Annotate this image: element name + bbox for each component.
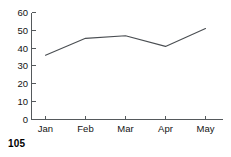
y-tick-label-40: 40 xyxy=(17,43,28,54)
x-tick-label-may: May xyxy=(197,123,215,134)
x-axis-ticks xyxy=(46,116,206,120)
x-tick-label-feb: Feb xyxy=(77,123,93,134)
chart-figure: 60 50 40 30 20 10 0 Jan Feb Mar Apr May … xyxy=(0,0,231,157)
line-chart: 60 50 40 30 20 10 0 Jan Feb Mar Apr May xyxy=(0,0,231,135)
y-tick-label-50: 50 xyxy=(17,25,28,36)
x-tick-label-mar: Mar xyxy=(117,123,133,134)
x-axis-tick-labels: Jan Feb Mar Apr May xyxy=(38,123,215,134)
data-series-line xyxy=(46,29,206,56)
y-tick-label-30: 30 xyxy=(17,60,28,71)
y-tick-label-60: 60 xyxy=(17,7,28,18)
x-tick-label-apr: Apr xyxy=(158,123,173,134)
x-tick-label-jan: Jan xyxy=(38,123,53,134)
y-axis-tick-labels: 60 50 40 30 20 10 0 xyxy=(17,7,28,125)
y-tick-label-0: 0 xyxy=(23,114,28,125)
page-number: 105 xyxy=(8,138,25,149)
y-tick-label-10: 10 xyxy=(17,96,28,107)
y-tick-label-20: 20 xyxy=(17,78,28,89)
y-axis-ticks xyxy=(32,13,36,120)
